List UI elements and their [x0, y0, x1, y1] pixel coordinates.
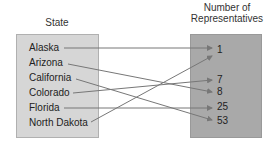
mapping-arrows	[0, 0, 272, 142]
arrow-california-to-53	[76, 79, 212, 120]
arrow-colorado-to-7	[73, 80, 212, 93]
